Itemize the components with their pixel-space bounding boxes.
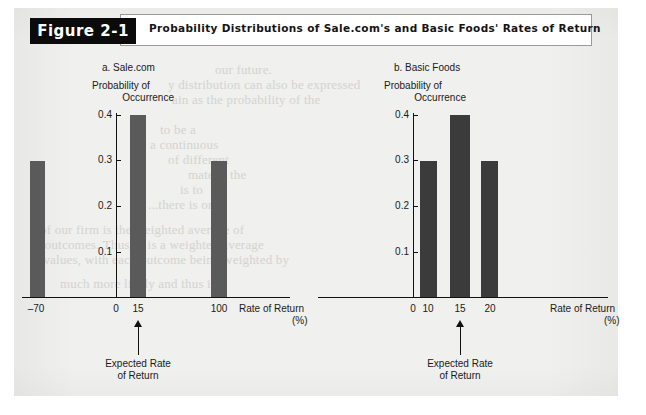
chart-panel-sale-com: a. Sale.com Probability of Occurrence 0.… [0, 0, 310, 415]
panel-b-expected-rate-arrowhead [456, 320, 464, 327]
panel-a-xtick-label-100: 100 [206, 303, 232, 314]
panel-a-bar-15 [130, 115, 146, 297]
panel-a-ytick-label-0.4: 0.4 [84, 109, 112, 120]
panel-a-x-axis [22, 297, 290, 298]
panel-b-expected-rate-arrow-line [460, 327, 461, 355]
panel-b-ytick-0.1 [413, 252, 418, 253]
panel-b-ytick-0.4 [413, 115, 418, 116]
panel-a-ytick-0.3 [116, 160, 121, 161]
panel-a-ytick-label-0.1: 0.1 [84, 246, 112, 257]
panel-a-yaxis-title-line1: Probability of [92, 80, 150, 92]
figure-title-box: Probability Distributions of Sale.com's … [120, 14, 592, 46]
panel-a-expected-rate-arrowhead [134, 320, 142, 327]
panel-a-label: a. Sale.com [102, 62, 155, 73]
panel-a-bar-minus70 [30, 161, 45, 297]
panel-b-xtick-label-20: 20 [478, 303, 502, 314]
panel-b-ytick-label-0.1: 0.1 [381, 246, 409, 257]
figure-page: our future.y distribution can also be ex… [0, 0, 646, 415]
panel-b-xaxis-name: Rate of Return [550, 303, 615, 314]
panel-a-yaxis-title-line2: Occurrence [92, 92, 174, 104]
panel-b-x-axis [318, 297, 608, 298]
panel-b-yaxis-title-line2: Occurrence [384, 92, 466, 104]
panel-b-ytick-label-0.3: 0.3 [381, 154, 409, 165]
panel-b-ytick-0.2 [413, 206, 418, 207]
panel-a-xtick-label-15: 15 [125, 303, 151, 314]
panel-b-bar-10 [420, 161, 437, 297]
panel-b-ytick-0.3 [413, 160, 418, 161]
panel-b-bar-20 [481, 161, 498, 297]
chart-panel-basic-foods: b. Basic Foods Probability of Occurrence… [318, 0, 628, 415]
panel-b-ytick-label-0.4: 0.4 [381, 109, 409, 120]
panel-b-expected-rate-label-line2: of Return [410, 370, 510, 382]
panel-a-ytick-label-0.2: 0.2 [84, 200, 112, 211]
panel-a-bar-100 [211, 161, 227, 297]
panel-a-ytick-label-0.3: 0.3 [84, 154, 112, 165]
panel-a-expected-rate-label-line1: Expected Rate [88, 358, 188, 370]
panel-b-xtick-label-10: 10 [416, 303, 440, 314]
panel-a-ytick-0.4 [116, 115, 121, 116]
panel-a-expected-rate-arrow-line [138, 327, 139, 355]
panel-a-ytick-0.2 [116, 206, 121, 207]
panel-b-label: b. Basic Foods [394, 62, 460, 73]
figure-title-text: Probability Distributions of Sale.com's … [149, 22, 601, 34]
panel-a-xtick-label-minus70: –70 [18, 303, 54, 314]
panel-a-xaxis-name: Rate of Return [239, 303, 304, 314]
panel-b-xaxis-unit: (%) [604, 315, 620, 326]
figure-number-banner: Figure 2-1 [30, 18, 136, 44]
panel-b-expected-rate-label-line1: Expected Rate [410, 358, 510, 370]
panel-b-xtick-label-15: 15 [448, 303, 472, 314]
figure-number-label: Figure 2-1 [30, 18, 136, 44]
panel-b-bar-15 [450, 115, 470, 297]
panel-a-expected-rate-label-line2: of Return [88, 370, 188, 382]
panel-b-yaxis-title-line1: Probability of [384, 80, 442, 92]
panel-b-ytick-label-0.2: 0.2 [381, 200, 409, 211]
panel-a-ytick-0.1 [116, 252, 121, 253]
panel-a-xaxis-unit: (%) [292, 315, 308, 326]
